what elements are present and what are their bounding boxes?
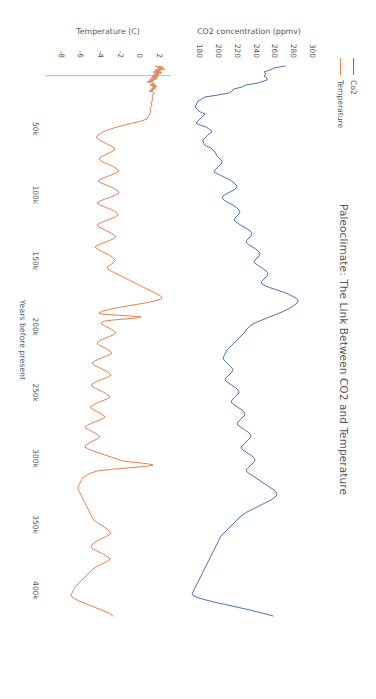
xtick-50k: 50k [31, 122, 40, 136]
xtick-250k: 250k [31, 383, 40, 401]
co2-ytick-240: 240 [251, 44, 260, 58]
xtick-100k: 100k [31, 186, 40, 204]
legend-swatch-temperature [340, 58, 341, 75]
xtick-200k: 200k [31, 318, 40, 336]
temperature-plot-svg [45, 63, 171, 617]
xtick-350k: 350k [31, 515, 40, 533]
xtick-150k: 150k [31, 252, 40, 270]
xtick-300k: 300k [31, 449, 40, 467]
temp-ytick-0: 0 [135, 53, 144, 58]
temp-ytick-minus2: -2 [115, 51, 124, 58]
legend-label-temperature: Temperature [336, 80, 345, 128]
temp-ytick-minus6: -6 [76, 51, 85, 58]
temperature-axis-title: Temperature (C) [76, 27, 139, 36]
legend: Co2 Temperature [336, 58, 358, 128]
co2-plot-svg [186, 63, 312, 617]
co2-ytick-280: 280 [289, 44, 298, 58]
co2-data-line [192, 66, 298, 616]
co2-plot-panel: 300 280 260 240 220 200 180 CO2 concentr… [186, 63, 312, 617]
xtick-400k: 400k [31, 581, 40, 599]
co2-ytick-180: 180 [195, 44, 204, 58]
co2-ytick-220: 220 [232, 44, 241, 58]
temp-ytick-2: 2 [155, 53, 164, 58]
legend-item-temperature[interactable]: Temperature [336, 58, 345, 128]
temp-ytick-minus4: -4 [96, 51, 105, 58]
temp-ytick-minus8: -8 [56, 51, 65, 58]
co2-ytick-200: 200 [214, 44, 223, 58]
co2-ytick-300: 300 [308, 44, 317, 58]
x-axis-title: Years before present [18, 300, 27, 380]
legend-label-co2: Co2 [349, 80, 358, 95]
paleoclimate-figure: Paleoclimate: The Link Between CO2 and T… [0, 0, 376, 699]
co2-axis-title: CO2 concentration (ppmv) [197, 27, 301, 36]
temperature-data-line [71, 66, 165, 616]
temperature-plot-panel: 2 0 -2 -4 -6 -8 Temperature (C) 50k 100k… [45, 63, 171, 617]
co2-ytick-260: 260 [270, 44, 279, 58]
legend-item-co2[interactable]: Co2 [349, 58, 358, 128]
rotated-figure-wrapper: Paleoclimate: The Link Between CO2 and T… [0, 0, 376, 699]
legend-swatch-co2 [353, 58, 354, 75]
